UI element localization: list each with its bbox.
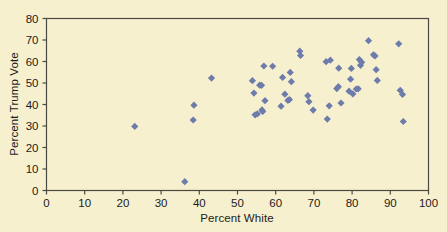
plot-area: 010203040506070809010001020304050607080: [0, 0, 447, 232]
y-tick-label-10: 10: [26, 163, 39, 175]
x-axis-title: Percent White: [46, 212, 428, 224]
x-tick-label-40: 40: [193, 197, 206, 209]
x-tick-label-10: 10: [78, 197, 91, 209]
x-tick-label-30: 30: [155, 197, 168, 209]
y-tick-label-0: 0: [32, 185, 38, 197]
y-axis-title: Percent Trump Vote: [8, 44, 20, 164]
y-tick-label-70: 70: [26, 34, 39, 46]
x-tick-label-60: 60: [269, 197, 282, 209]
x-tick-label-70: 70: [308, 197, 321, 209]
y-tick-label-40: 40: [26, 99, 39, 111]
x-tick-label-80: 80: [346, 197, 359, 209]
y-tick-label-60: 60: [26, 56, 39, 68]
x-tick-label-0: 0: [43, 197, 49, 209]
plot-background: [47, 19, 429, 191]
y-tick-label-50: 50: [26, 77, 39, 89]
x-tick-label-90: 90: [384, 197, 397, 209]
scatter-chart: 010203040506070809010001020304050607080 …: [0, 0, 447, 232]
x-tick-label-20: 20: [117, 197, 130, 209]
y-tick-label-20: 20: [26, 142, 39, 154]
y-tick-label-80: 80: [26, 13, 39, 25]
x-tick-label-100: 100: [419, 197, 438, 209]
y-tick-label-30: 30: [26, 120, 39, 132]
x-tick-label-50: 50: [231, 197, 244, 209]
